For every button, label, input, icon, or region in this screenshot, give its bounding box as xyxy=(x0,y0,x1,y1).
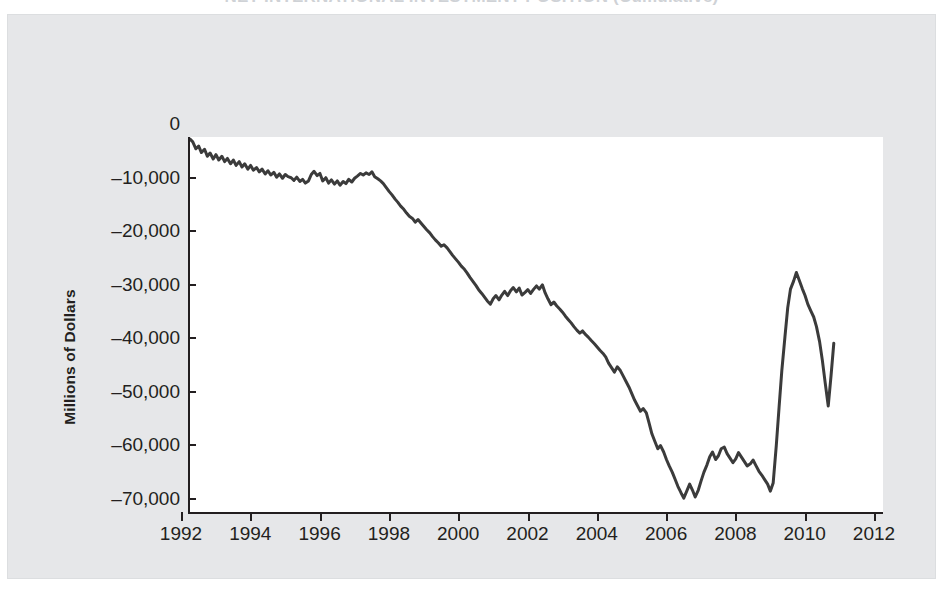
x-axis-tick-label: 1998 xyxy=(359,524,419,543)
x-axis-tick-label: 2010 xyxy=(775,524,835,543)
x-axis-tick-mark xyxy=(735,512,737,521)
x-axis-tick-label: 1996 xyxy=(290,524,350,543)
x-axis-tick-mark xyxy=(181,512,183,521)
y-axis-tick-label: 0 xyxy=(169,114,180,133)
y-axis-tick-mark xyxy=(188,391,196,393)
x-axis-tick-mark xyxy=(458,512,460,521)
chart-plate: Millions of Dollars 0–10,000–20,000–30,0… xyxy=(7,14,936,579)
x-axis-tick-label: 2012 xyxy=(844,524,904,543)
y-axis-tick-label: –40,000 xyxy=(111,328,180,347)
x-axis-tick-mark xyxy=(805,512,807,521)
y-axis-tick-mark xyxy=(188,444,196,446)
x-axis-tick-mark xyxy=(666,512,668,521)
x-axis-tick-label: 1992 xyxy=(151,524,211,543)
x-axis-tick-label: 1994 xyxy=(220,524,280,543)
x-axis-tick-mark xyxy=(250,512,252,521)
x-axis-tick-label: 2002 xyxy=(498,524,558,543)
y-axis-tick-mark xyxy=(188,337,196,339)
y-axis-tick-label: –60,000 xyxy=(111,435,180,454)
series-line-net-investment-position xyxy=(190,139,834,498)
plot-area xyxy=(188,137,883,514)
page-bottom-margin xyxy=(0,580,943,615)
x-axis-tick-mark xyxy=(320,512,322,521)
y-axis-tick-mark xyxy=(188,230,196,232)
x-axis-tick-label: 2000 xyxy=(428,524,488,543)
figure: NET INTERNATIONAL INVESTMENT POSITION (C… xyxy=(0,0,943,615)
x-axis-tick-mark xyxy=(597,512,599,521)
series-canvas xyxy=(190,137,883,512)
y-axis-tick-label: –10,000 xyxy=(111,168,180,187)
y-axis-tick-label: –20,000 xyxy=(111,221,180,240)
y-axis-tick-mark xyxy=(188,177,196,179)
y-axis-tick-mark xyxy=(188,498,196,500)
figure-title-strip: NET INTERNATIONAL INVESTMENT POSITION (C… xyxy=(0,0,943,13)
x-axis-tick-mark xyxy=(528,512,530,521)
figure-title: NET INTERNATIONAL INVESTMENT POSITION (C… xyxy=(0,0,943,7)
y-axis-tick-label: –50,000 xyxy=(111,382,180,401)
y-axis-tick-mark xyxy=(188,284,196,286)
y-axis-labels: 0–10,000–20,000–30,000–40,000–50,000–60,… xyxy=(8,15,180,580)
x-axis-tick-mark xyxy=(874,512,876,521)
y-axis-tick-label: –30,000 xyxy=(111,275,180,294)
y-axis-tick-label: –70,000 xyxy=(111,489,180,508)
x-axis-tick-label: 2004 xyxy=(567,524,627,543)
x-axis-tick-label: 2008 xyxy=(705,524,765,543)
x-axis-tick-label: 2006 xyxy=(636,524,696,543)
x-axis-tick-mark xyxy=(389,512,391,521)
